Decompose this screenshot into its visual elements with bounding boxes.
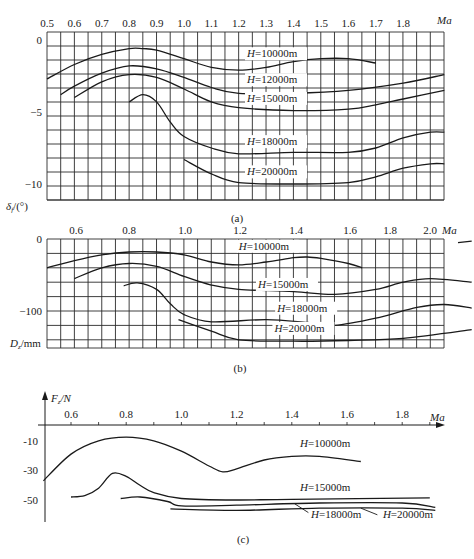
series-label: H=12000m <box>246 73 298 85</box>
svg-text:0.9: 0.9 <box>150 17 164 29</box>
svg-text:0: 0 <box>37 34 43 46</box>
svg-text:−100: −100 <box>19 305 42 317</box>
caption-b: (b) <box>234 362 247 375</box>
svg-text:1.6: 1.6 <box>342 17 356 29</box>
x-tick-labels-c: 0.60.81.01.21.41.61.8 <box>64 408 409 420</box>
series-label: H=18000m <box>276 302 328 314</box>
svg-text:−10: −10 <box>25 178 43 190</box>
series-label: H=20000m <box>246 165 298 177</box>
svg-text:0.6: 0.6 <box>68 17 82 29</box>
x-tick-labels-b: 0.60.81.01.21.41.61.82.0 <box>69 224 437 236</box>
series-label: H=10000m <box>299 437 351 449</box>
svg-text:0: 0 <box>37 233 43 245</box>
y-tick-labels-a: 0−5−10 <box>25 34 43 190</box>
svg-text:-50: -50 <box>23 494 38 506</box>
svg-text:0.8: 0.8 <box>119 408 133 420</box>
svg-text:1.4: 1.4 <box>285 408 299 420</box>
y-axis-label-a: δf/(°) <box>6 200 28 214</box>
svg-text:-10: -10 <box>23 435 38 447</box>
svg-text:1.6: 1.6 <box>340 408 354 420</box>
svg-text:0.8: 0.8 <box>122 224 136 236</box>
svg-text:1.8: 1.8 <box>395 408 409 420</box>
svg-text:1.0: 1.0 <box>178 224 192 236</box>
series-label: H=10000m <box>246 47 298 59</box>
series-label: H=20000m <box>273 322 325 334</box>
svg-text:-30: -30 <box>23 464 38 476</box>
svg-text:0.6: 0.6 <box>69 224 83 236</box>
svg-text:0.6: 0.6 <box>64 408 78 420</box>
svg-text:1.2: 1.2 <box>232 17 246 29</box>
svg-text:1.4: 1.4 <box>287 17 301 29</box>
curves-c <box>43 437 435 510</box>
svg-text:1.8: 1.8 <box>396 17 410 29</box>
svg-text:0.8: 0.8 <box>122 17 136 29</box>
y-axis-arrow-icon <box>42 391 48 400</box>
caption-c: (c) <box>237 533 250 546</box>
svg-text:1.0: 1.0 <box>177 17 191 29</box>
chart-panel-b: 0.60.81.01.21.41.61.82.0 0−100 H=10000mH… <box>9 224 472 375</box>
series-label: H=10000m <box>238 240 290 252</box>
x-tick-labels-a: 0.50.60.70.80.91.01.11.21.31.41.51.61.71… <box>40 17 410 29</box>
svg-text:1.2: 1.2 <box>230 408 244 420</box>
svg-text:1.4: 1.4 <box>289 224 303 236</box>
series-label: H=18000m <box>246 135 298 147</box>
svg-text:1.1: 1.1 <box>205 17 219 29</box>
svg-text:1.8: 1.8 <box>383 224 397 236</box>
x-axis-label-a: Ma <box>436 14 452 26</box>
x-axis-label-c: Ma <box>429 411 445 423</box>
svg-text:1.7: 1.7 <box>369 17 383 29</box>
grid-b <box>47 239 444 348</box>
series-label: H=15000m <box>257 278 309 290</box>
series-label: H=15000m <box>246 92 298 104</box>
figure: 0.50.60.70.80.91.01.11.21.31.41.51.61.71… <box>0 0 474 559</box>
chart-panel-a: 0.50.60.70.80.91.01.11.21.31.41.51.61.71… <box>6 14 452 225</box>
y-axis-label-b: Dz/mm <box>9 337 41 351</box>
svg-text:1.5: 1.5 <box>314 17 328 29</box>
y-tick-labels-b: 0−100 <box>19 233 42 317</box>
svg-text:1.6: 1.6 <box>343 224 357 236</box>
curve-10000m <box>47 252 362 268</box>
curve-segment <box>458 241 472 242</box>
svg-text:0.7: 0.7 <box>95 17 109 29</box>
series-labels-a: H=10000mH=12000mH=15000mH=18000mH=20000m <box>245 47 307 178</box>
series-label: H=15000m <box>299 481 351 493</box>
svg-text:0.5: 0.5 <box>40 17 54 29</box>
svg-text:1.2: 1.2 <box>233 224 247 236</box>
leader-line <box>361 508 378 515</box>
curves-b <box>47 241 472 341</box>
svg-text:−5: −5 <box>30 106 42 118</box>
curve-15000m <box>71 473 430 500</box>
series-label: H=18000m <box>310 508 362 520</box>
chart-panel-c: 0.60.81.01.21.41.61.8 -10-30-50 H=10000m… <box>23 391 445 546</box>
svg-text:1.0: 1.0 <box>175 408 189 420</box>
svg-text:1.3: 1.3 <box>259 17 273 29</box>
x-axis-label-b: Ma <box>441 224 457 236</box>
series-label: H=20000m <box>382 508 434 520</box>
y-tick-labels-c: -10-30-50 <box>23 435 38 506</box>
svg-text:2.0: 2.0 <box>423 224 437 236</box>
y-axis-label-c: Fz/N <box>50 392 72 406</box>
